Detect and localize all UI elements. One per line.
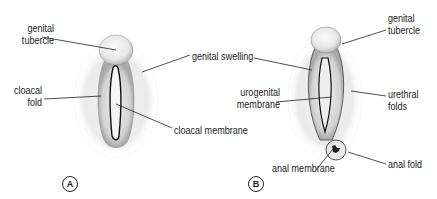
label-genital-tubercle-b: genital tubercle xyxy=(388,12,420,36)
label-line-2: tubercle xyxy=(20,34,54,46)
figure-a-badge: A xyxy=(62,176,78,192)
cloacal-membrane-a xyxy=(110,66,121,140)
label-urethral-folds: urethral folds xyxy=(388,88,419,112)
label-anal-fold: anal fold xyxy=(388,158,422,170)
label-line-2: membrane xyxy=(234,98,280,110)
label-anal-membrane: anal membrane xyxy=(272,162,335,174)
label-urogenital-membrane: urogenital membrane xyxy=(234,86,280,110)
label-line-1: urethral xyxy=(388,88,419,100)
label-cloacal-membrane: cloacal membrane xyxy=(174,124,248,136)
figure-a-illustration xyxy=(42,35,190,158)
label-line-1: cloacal xyxy=(13,84,42,96)
label-cloacal-fold: cloacal fold xyxy=(13,84,42,108)
label-line-1: urogenital xyxy=(234,86,280,98)
label-genital-tubercle-a: genital tubercle xyxy=(20,22,54,46)
figure-b-badge: B xyxy=(248,176,264,192)
label-line-2: fold xyxy=(13,96,42,108)
label-line-1: genital xyxy=(20,22,54,34)
diagram-canvas xyxy=(0,0,437,199)
label-genital-swelling: genital swelling xyxy=(192,50,253,62)
label-line-2: tubercle xyxy=(388,24,420,36)
genital-tubercle-b xyxy=(311,27,341,53)
label-line-1: genital xyxy=(388,12,420,24)
label-line-2: folds xyxy=(388,100,419,112)
